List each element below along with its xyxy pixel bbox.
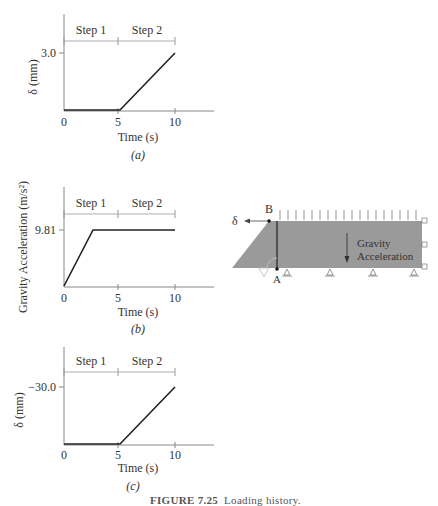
chart-b: Step 1 Step 2 9.81 0 5 10 Time (s) (b) G… [0,165,220,335]
svg-text:(c): (c) [126,479,139,493]
svg-text:δ (mm): δ (mm) [12,392,26,427]
surface-load-arrows [280,210,416,220]
svg-text:0: 0 [61,448,67,462]
figure-caption: FIGURE 7.25Loading history. [150,494,410,506]
step2-label: Step 2 [132,23,162,37]
point-b-label: B [265,202,273,216]
svg-text:5: 5 [115,115,121,129]
y-tick: 3.0 [41,46,56,60]
step1-label: Step 1 [76,23,106,37]
svg-text:Step 2: Step 2 [132,196,162,210]
svg-text:Time (s): Time (s) [118,461,159,475]
chart-a: Step 1 Step 2 3.0 0 5 10 Time (s) (a) δ … [0,0,220,170]
svg-text:5: 5 [115,291,121,305]
svg-text:Step 1: Step 1 [76,354,106,368]
panel-label: (a) [131,148,145,162]
x-label: Time (s) [118,130,159,144]
svg-text:Gravity Acceleration (m/s²): Gravity Acceleration (m/s²) [16,181,30,313]
svg-text:10: 10 [169,291,181,305]
svg-text:10: 10 [169,115,181,129]
y-label: δ (mm) [26,59,40,94]
svg-text:5: 5 [115,448,121,462]
acceleration-label: Acceleration [357,250,414,262]
svg-text:−30.0: −30.0 [28,380,56,394]
delta-label: δ [232,214,238,228]
model-diagram: δ B A Gravity Acceleration [220,180,438,290]
chart-c: Step 1 Step 2 −30.0 0 5 10 Time (s) (c) … [0,330,220,500]
svg-text:Step 1: Step 1 [76,196,106,210]
side-rollers [422,218,427,269]
point-a-label: A [273,273,281,285]
svg-text:9.81: 9.81 [35,223,56,237]
svg-text:Step 2: Step 2 [132,354,162,368]
svg-text:Time (s): Time (s) [118,305,159,319]
svg-text:0: 0 [61,291,67,305]
svg-text:0: 0 [61,115,67,129]
data-line [64,53,175,110]
gravity-label: Gravity [357,237,391,249]
base-supports [282,269,419,276]
svg-text:10: 10 [169,448,181,462]
